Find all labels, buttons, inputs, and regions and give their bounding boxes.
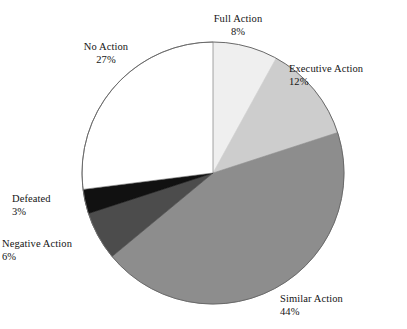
- pie-label-no-action-value: 27%: [56, 53, 156, 66]
- pie-label-defeated-name: Defeated: [12, 192, 104, 205]
- pie-label-defeated: Defeated 3%: [12, 192, 104, 218]
- pie-label-executive-action-value: 12%: [289, 75, 407, 88]
- pie-label-negative-action-value: 6%: [2, 250, 112, 263]
- pie-label-negative-action-name: Negative Action: [2, 237, 112, 250]
- pie-label-full-action: Full Action 8%: [178, 12, 298, 38]
- pie-chart-figure: Full Action 8% Executive Action 12% Simi…: [0, 0, 407, 329]
- pie-label-full-action-name: Full Action: [178, 12, 298, 25]
- pie-label-similar-action-value: 44%: [280, 305, 400, 318]
- pie-label-similar-action-name: Similar Action: [280, 292, 400, 305]
- pie-label-full-action-value: 8%: [178, 25, 298, 38]
- pie-label-similar-action: Similar Action 44%: [280, 292, 400, 318]
- pie-label-negative-action: Negative Action 6%: [2, 237, 112, 263]
- pie-label-no-action-name: No Action: [56, 40, 156, 53]
- pie-label-executive-action-name: Executive Action: [289, 62, 407, 75]
- pie-label-defeated-value: 3%: [12, 205, 104, 218]
- pie-label-no-action: No Action 27%: [56, 40, 156, 66]
- pie-label-executive-action: Executive Action 12%: [289, 62, 407, 88]
